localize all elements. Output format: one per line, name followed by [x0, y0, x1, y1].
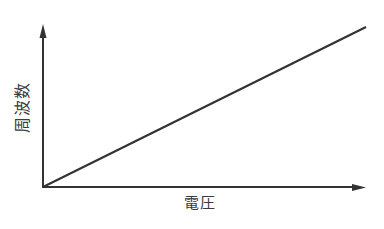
- x-axis-arrow-icon: [352, 184, 366, 191]
- y-axis-arrow-icon: [40, 24, 47, 38]
- x-axis-label: 電圧: [184, 191, 216, 212]
- data-line: [43, 27, 366, 187]
- voltage-frequency-chart: 周波数 電圧: [0, 0, 384, 229]
- y-axis-label: 周波数: [9, 82, 33, 133]
